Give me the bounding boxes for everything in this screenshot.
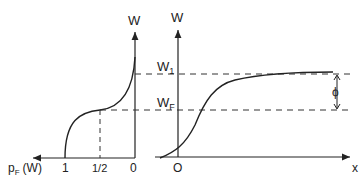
tick-half: 1/2 — [92, 162, 107, 174]
w1-label: W1 — [157, 59, 174, 76]
wf-label: WF — [157, 95, 175, 112]
tick-0: 0 — [130, 161, 137, 175]
phi-label: ϕ — [332, 85, 339, 99]
left-y-axis-label: W — [128, 13, 141, 28]
right-y-axis-label: W — [171, 10, 184, 25]
right-plot: ϕ W O x W1 WF — [155, 10, 358, 175]
x-axis-label: x — [352, 161, 358, 175]
fermi-curve — [65, 57, 135, 158]
potential-curve — [160, 72, 333, 158]
diagram-canvas: W pF(W) 1 1/2 0 ϕ W O x W1 WF — [0, 0, 362, 186]
origin-label: O — [173, 161, 182, 175]
left-plot: W pF(W) 1 1/2 0 — [8, 13, 141, 177]
tick-1: 1 — [62, 161, 69, 175]
x-axis-label-p: pF(W) — [8, 161, 42, 177]
